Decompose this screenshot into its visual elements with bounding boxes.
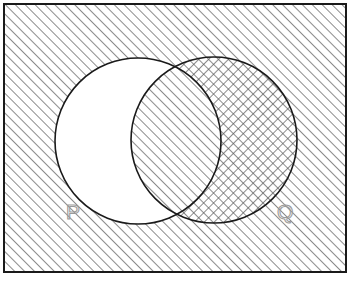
set-label-p: P — [66, 200, 80, 223]
venn-diagram-figure: P Q — [0, 0, 357, 286]
venn-diagram-canvas: P Q — [0, 0, 357, 286]
set-label-q: Q — [277, 200, 293, 223]
region-q-only — [5, 5, 345, 271]
